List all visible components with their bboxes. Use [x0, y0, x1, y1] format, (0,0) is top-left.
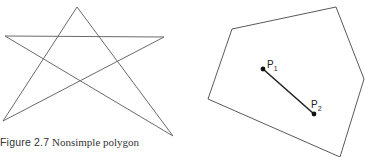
figure-label: Figure 2.7: [0, 136, 49, 148]
point-p1: [261, 67, 266, 72]
label-p1: P1: [267, 59, 278, 72]
figure-caption: Figure 2.7 Nonsimple polygon: [0, 136, 139, 148]
label-p2: P2: [311, 99, 322, 112]
figure-caption-text: Nonsimple polygon: [52, 136, 139, 148]
convex-polygon: [208, 7, 364, 157]
segment-p1-p2: [263, 69, 314, 114]
figure-canvas: P1 P2: [0, 0, 365, 157]
nonsimple-star-polygon: [3, 7, 173, 136]
point-p2: [312, 112, 317, 117]
